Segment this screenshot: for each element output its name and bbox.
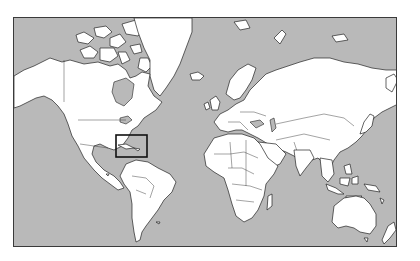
map-canvas <box>14 18 397 247</box>
india <box>294 150 314 176</box>
iceland <box>190 72 204 80</box>
southeast-asia <box>320 158 334 182</box>
south-america <box>120 160 176 242</box>
world-map <box>13 17 397 247</box>
new-zealand <box>382 222 396 244</box>
british-isles <box>210 96 220 110</box>
madagascar <box>267 194 272 210</box>
australia <box>332 196 376 234</box>
indonesia <box>326 164 380 198</box>
caribbean-islands <box>118 144 140 151</box>
